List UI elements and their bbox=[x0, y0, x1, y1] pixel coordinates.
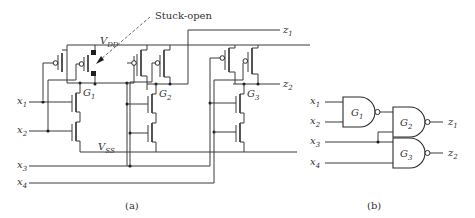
pmos-bubble-icon bbox=[53, 61, 58, 66]
x4-label: x4 bbox=[17, 176, 27, 190]
g3-label: G3 bbox=[247, 88, 260, 102]
nand-gate-g2 bbox=[393, 107, 425, 137]
caption-a: (a) bbox=[125, 200, 139, 211]
x3-label: x3 bbox=[17, 159, 28, 173]
b-z1-label: z1 bbox=[447, 116, 458, 130]
panel-b-gate-diagram: G1 G2 G3 x1 x2 x3 x4 z1 z2 (b) bbox=[310, 95, 458, 211]
g2-label: G2 bbox=[159, 88, 172, 102]
stuck-open-label: Stuck-open bbox=[155, 10, 213, 21]
b-x2-label: x2 bbox=[310, 115, 321, 129]
panel-a-transistor-circuit: Stuck-open VDD VSS G1 G2 G3 x1 x2 x3 x4 … bbox=[17, 10, 310, 211]
pmos-bubble-icon bbox=[132, 61, 137, 66]
vdd-label: VDD bbox=[100, 35, 119, 49]
inversion-bubble-icon bbox=[425, 151, 430, 156]
b-z2-label: z2 bbox=[447, 147, 458, 161]
stuck-open-marker-top bbox=[91, 50, 96, 55]
x2-label: x2 bbox=[17, 124, 28, 138]
nand-gate-g3 bbox=[393, 138, 425, 168]
b-x3-label: x3 bbox=[310, 135, 321, 149]
vss-label: VSS bbox=[98, 141, 115, 155]
pmos-bubble-icon bbox=[243, 59, 248, 64]
z1-label: z1 bbox=[282, 24, 293, 38]
pmos-bubble-icon bbox=[79, 62, 84, 67]
cmos-circuit-figure: Stuck-open VDD VSS G1 G2 G3 x1 x2 x3 x4 … bbox=[0, 0, 475, 218]
g1-pulldown bbox=[43, 80, 80, 152]
stuck-open-marker-bottom bbox=[91, 71, 96, 76]
caption-b: (b) bbox=[367, 200, 381, 211]
stuck-open-arrow bbox=[100, 17, 150, 60]
pmos-bubble-icon bbox=[155, 61, 160, 66]
g3-nand bbox=[209, 45, 281, 183]
b-x4-label: x4 bbox=[310, 156, 320, 170]
z2-label: z2 bbox=[282, 78, 293, 92]
pmos-bubble-icon bbox=[220, 56, 225, 61]
b-x1-label: x1 bbox=[310, 95, 320, 109]
inversion-bubble-icon bbox=[375, 110, 380, 115]
x1-label: x1 bbox=[17, 95, 27, 109]
nand-gate-g1 bbox=[343, 97, 375, 127]
g1-label: G1 bbox=[83, 87, 95, 101]
inversion-bubble-icon bbox=[425, 120, 430, 125]
